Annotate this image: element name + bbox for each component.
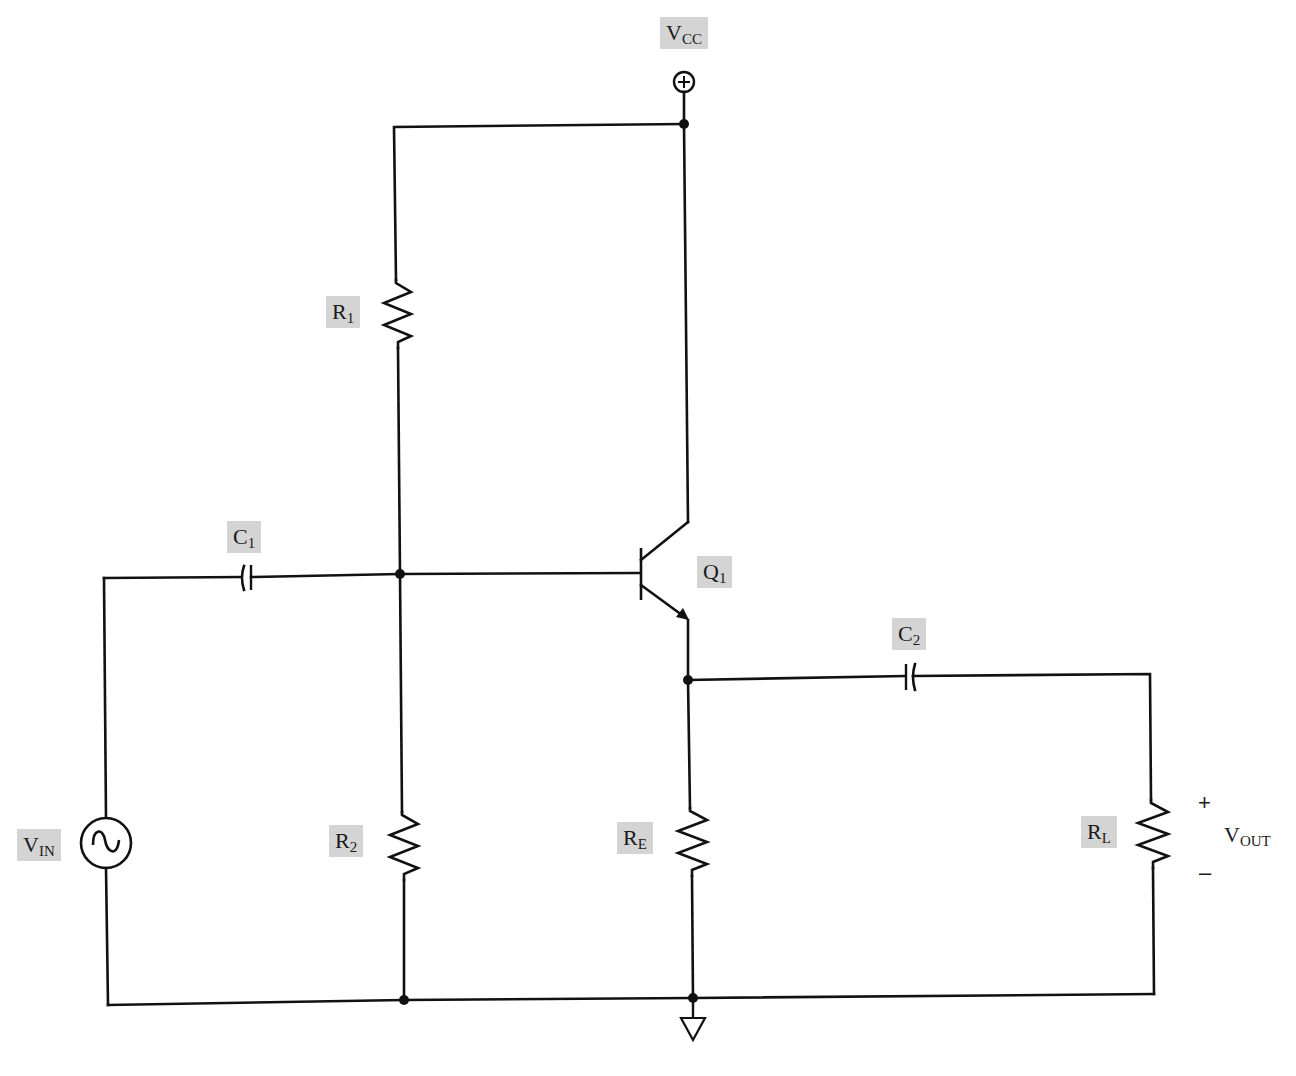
label-rl-main: R [1087,819,1102,844]
label-vout-main: V [1224,822,1240,847]
node-base [395,569,405,579]
label-r2: R2 [329,825,363,857]
capacitor-c1-icon [242,565,251,590]
vout-minus-sign: – [1199,862,1211,884]
label-r1-main: R [332,299,347,324]
label-vout-sub: OUT [1240,833,1271,849]
resistor-r2-icon [390,812,418,880]
label-vcc: VCC [660,17,708,49]
label-c1: C1 [227,521,261,553]
label-vin: VIN [17,829,61,861]
label-c2-main: C [898,621,913,646]
resistor-r1-icon [384,280,411,348]
label-r1: R1 [326,296,360,328]
label-re: RE [617,822,653,854]
label-q1-main: Q [703,559,719,584]
label-rl-sub: L [1102,830,1111,846]
label-re-main: R [623,825,638,850]
capacitor-c2-icon [906,664,915,690]
label-rl: RL [1081,816,1117,848]
label-r1-sub: 1 [347,310,355,326]
label-r2-main: R [335,828,350,853]
label-vin-main: V [23,832,39,857]
node-vcc [679,119,689,129]
label-c2: C2 [892,618,926,650]
wire-vcc-rail [394,92,688,522]
wire-base [104,573,640,812]
label-c1-sub: 1 [248,535,256,551]
wire-r1-base [398,348,400,574]
label-vout: VOUT [1224,824,1271,846]
label-vin-sub: IN [39,843,55,859]
label-re-sub: E [638,836,647,852]
vout-plus-sign: + [1198,792,1211,814]
circuit-schematic [0,0,1296,1076]
transistor-q1-icon [641,522,689,680]
label-vcc-main: V [666,20,682,45]
label-c1-main: C [233,524,248,549]
wire-rl-ground [1153,868,1154,994]
label-q1-sub: 1 [719,570,727,586]
label-r2-sub: 2 [350,839,358,855]
vcc-terminal-icon [674,72,694,92]
wire-emitter [688,674,1151,808]
resistor-re-icon [678,808,707,876]
node-emitter [683,675,693,685]
wire-ground-rail [108,994,1154,1005]
label-c2-sub: 2 [913,632,921,648]
wire-re-ground [692,876,693,998]
node-ground-r2 [399,995,409,1005]
ground-icon [681,998,705,1040]
resistor-rl-icon [1138,800,1168,868]
ac-source-vin-icon [81,578,131,1005]
label-vcc-sub: CC [682,31,702,47]
label-q1: Q1 [697,556,732,588]
